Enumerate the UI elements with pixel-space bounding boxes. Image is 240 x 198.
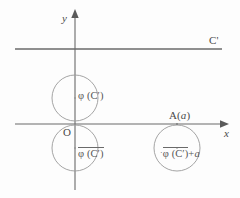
lower-circle-label: φ (C′) (78, 147, 104, 159)
y-axis-label: y (62, 13, 67, 24)
math-figure: y x O C' A(a) φ (C′) φ (C′) ·φ (C′)+a (0, 0, 240, 198)
right-circle-label-overlined: φ (C′) (163, 147, 189, 159)
right-circle-label: ·φ (C′)+a (160, 147, 200, 159)
point-a-label-prefix: A( (169, 109, 181, 121)
point-a-marker (176, 123, 178, 125)
upper-circle-label: φ (C′) (78, 91, 104, 102)
line-cprime-label: C' (209, 35, 219, 46)
y-axis-arrowhead (71, 9, 78, 18)
right-circle-label-variable: a (194, 148, 199, 159)
figure-canvas (0, 0, 240, 198)
upper-circle-center-dot (74, 97, 76, 99)
origin-label: O (63, 127, 71, 138)
lower-circle-label-overlined: φ (C′) (78, 147, 104, 159)
point-a-label-suffix: ) (186, 109, 190, 121)
x-axis-label: x (224, 128, 229, 139)
lower-circle-center-dot (74, 147, 76, 149)
point-a-label: A(a) (169, 110, 190, 121)
